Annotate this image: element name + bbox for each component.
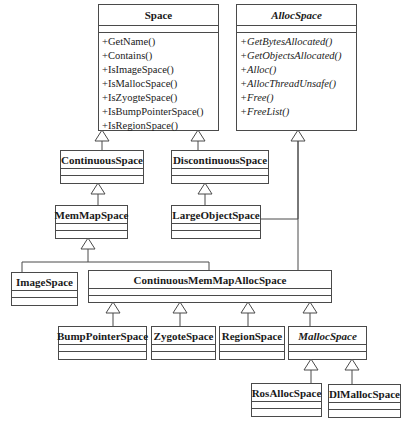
class-name: ZygoteSpace: [154, 330, 214, 342]
inheritance-arrowhead-icon: [91, 183, 105, 194]
class-name: RegionSpace: [222, 330, 283, 342]
method-get-bytes-allocated: +GetBytesAllocated(): [240, 36, 333, 48]
method-is-region-space: +IsRegionSpace(): [102, 120, 178, 132]
method-get-name: +GetName(): [102, 36, 156, 48]
class-name: Space: [145, 9, 173, 21]
class-image-space[interactable]: ImageSpace: [12, 273, 78, 306]
class-continuous-space[interactable]: ContinuousSpace: [61, 151, 144, 184]
class-name: RosAllocSpace: [252, 387, 322, 399]
edge-continuous-mem-map-alloc-space-to-mem-map-space: [88, 262, 209, 270]
class-region-space[interactable]: RegionSpace: [220, 327, 285, 360]
class-zygote-space[interactable]: ZygoteSpace: [152, 327, 216, 360]
inheritance-arrowhead-icon: [345, 359, 359, 370]
class-ros-alloc-space[interactable]: RosAllocSpace: [252, 384, 322, 417]
method-is-malloc-space: +IsMallocSpace(): [102, 78, 178, 90]
class-discontinuous-space[interactable]: DiscontinuousSpace: [172, 151, 269, 184]
method-alloc-thread-unsafe: +AllocThreadUnsafe(): [240, 78, 336, 90]
class-large-object-space[interactable]: LargeObjectSpace: [172, 206, 261, 239]
class-name: DiscontinuousSpace: [173, 154, 267, 166]
class-alloc-space[interactable]: AllocSpace+GetBytesAllocated()+GetObject…: [237, 5, 357, 131]
method-is-image-space: +IsImageSpace(): [102, 64, 174, 76]
class-bump-pointer-space[interactable]: BumpPointerSpace: [57, 327, 148, 360]
class-dl-malloc-space[interactable]: DlMallocSpace: [329, 385, 401, 418]
inheritance-arrowhead-icon: [304, 359, 318, 370]
method-alloc: +Alloc(): [240, 64, 277, 76]
inheritance-arrowhead-icon: [241, 302, 255, 313]
inheritance-arrowhead-icon: [173, 302, 187, 313]
edge-image-space-to-mem-map-space: [22, 238, 88, 272]
class-name: BumpPointerSpace: [57, 330, 148, 342]
uml-class-diagram: Space+GetName()+Contains()+IsImageSpace(…: [0, 0, 406, 427]
class-name: ImageSpace: [16, 276, 73, 288]
inheritance-arrowhead-icon: [198, 183, 212, 194]
inheritance-arrowhead-icon: [303, 302, 317, 313]
inheritance-arrowhead-icon: [291, 130, 305, 141]
method-free: +Free(): [240, 92, 274, 104]
method-is-zyogte-space: +IsZyogteSpace(): [102, 92, 178, 104]
inheritance-arrowhead-icon: [191, 130, 205, 141]
class-name: ContinuousSpace: [61, 154, 143, 166]
class-boxes: Space+GetName()+Contains()+IsImageSpace(…: [12, 5, 401, 418]
class-space[interactable]: Space+GetName()+Contains()+IsImageSpace(…: [99, 5, 219, 132]
method-free-list: +FreeList(): [240, 106, 290, 118]
inheritance-arrowhead-icon: [95, 130, 109, 141]
class-name: ContinuousMemMapAllocSpace: [134, 274, 287, 286]
class-name: LargeObjectSpace: [172, 209, 259, 221]
method-get-objects-allocated: +GetObjectsAllocated(): [240, 50, 342, 62]
inheritance-arrowhead-icon: [106, 302, 120, 313]
inheritance-arrowhead-icon: [81, 238, 95, 249]
method-is-bump-pointer-space: +IsBumpPointerSpace(): [102, 106, 204, 118]
class-name: MemMapSpace: [55, 209, 129, 221]
class-mem-map-space[interactable]: MemMapSpace: [55, 206, 129, 239]
class-name: AllocSpace: [270, 9, 322, 21]
class-name: MallocSpace: [297, 330, 357, 342]
class-name: DlMallocSpace: [329, 388, 400, 400]
class-continuous-mem-map-alloc-space[interactable]: ContinuousMemMapAllocSpace: [89, 271, 332, 303]
class-malloc-space[interactable]: MallocSpace: [289, 327, 367, 360]
method-contains: +Contains(): [102, 50, 153, 62]
